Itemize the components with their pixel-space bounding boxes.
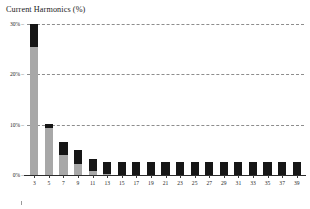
bar-stack: [263, 162, 271, 175]
bar-stack: [103, 162, 111, 175]
bar-27: [205, 24, 213, 175]
bar-group: [27, 24, 304, 175]
bar-segment-limit: [132, 162, 140, 175]
y-tick-text: 30%: [10, 21, 20, 27]
x-tick-label: 21: [163, 180, 169, 186]
bar-19: [147, 24, 155, 175]
bar-23: [176, 24, 184, 175]
bar-stack: [74, 150, 82, 175]
y-tick-dash-icon: –: [21, 21, 24, 27]
bar-stack: [191, 162, 199, 175]
bar-stack: [132, 162, 140, 175]
y-tick-label: 20%–: [10, 71, 24, 77]
x-tick-label: 25: [192, 180, 198, 186]
x-tick-label: 19: [148, 180, 154, 186]
bar-15: [118, 24, 126, 175]
bar-segment-limit: [147, 162, 155, 175]
bar-17: [132, 24, 140, 175]
x-tick-label: 39: [294, 180, 300, 186]
scan-artifact: [21, 201, 22, 205]
bar-stack: [118, 162, 126, 175]
bar-stack: [89, 159, 97, 175]
x-tick-label: 29: [221, 180, 227, 186]
bar-13: [103, 24, 111, 175]
bar-stack: [59, 142, 67, 175]
bar-segment-limit: [249, 162, 257, 175]
plot-area: 0%–10%–20%–30%–: [27, 24, 304, 175]
x-tick-label: 11: [90, 180, 95, 186]
x-tick-mark: [268, 175, 269, 178]
x-tick-label: 13: [104, 180, 110, 186]
bar-segment-limit: [30, 24, 38, 47]
y-tick-dash-icon: –: [21, 122, 24, 128]
y-tick-text: 0%: [13, 172, 20, 178]
x-tick-label: 7: [62, 180, 65, 186]
y-tick-dash-icon: –: [21, 71, 24, 77]
x-tick-label: 15: [119, 180, 125, 186]
x-tick-mark: [122, 175, 123, 178]
bar-35: [263, 24, 271, 175]
x-tick-mark: [78, 175, 79, 178]
y-tick-label: 30%–: [10, 21, 24, 27]
x-tick-mark: [93, 175, 94, 178]
x-tick-mark: [253, 175, 254, 178]
bar-segment-limit: [263, 162, 271, 175]
bar-segment-limit: [118, 162, 126, 175]
x-tick-mark: [224, 175, 225, 178]
x-tick-mark: [151, 175, 152, 178]
x-tick-mark: [63, 175, 64, 178]
x-tick-mark: [166, 175, 167, 178]
y-tick-text: 20%: [10, 71, 20, 77]
bar-stack: [205, 162, 213, 175]
x-tick-mark: [195, 175, 196, 178]
bar-stack: [278, 162, 286, 175]
x-tick-label: 3: [33, 180, 36, 186]
y-tick-label: 0%–: [13, 172, 24, 178]
bar-9: [74, 24, 82, 175]
x-tick-label: 5: [47, 180, 50, 186]
bar-segment-limit: [103, 162, 111, 174]
bar-segment-limit: [59, 142, 67, 156]
x-tick-label: 23: [177, 180, 183, 186]
x-tick-mark: [34, 175, 35, 178]
bar-stack: [45, 124, 53, 175]
bar-39: [293, 24, 301, 175]
bar-11: [89, 24, 97, 175]
x-tick-mark: [136, 175, 137, 178]
x-tick-mark: [282, 175, 283, 178]
bar-segment-limit: [293, 162, 301, 175]
bar-segment-limit: [220, 162, 228, 175]
bar-stack: [30, 24, 38, 175]
harmonics-chart: Current Harmonics (%) 0%–10%–20%–30%– 35…: [0, 0, 310, 209]
bar-segment-measured: [74, 164, 82, 175]
x-tick-mark: [107, 175, 108, 178]
x-tick-label: 37: [279, 180, 285, 186]
bar-segment-measured: [45, 128, 53, 175]
x-tick-label: 31: [236, 180, 242, 186]
bar-segment-limit: [161, 162, 169, 175]
x-tick-mark: [180, 175, 181, 178]
bar-7: [59, 24, 67, 175]
chart-title: Current Harmonics (%): [6, 5, 85, 14]
bar-stack: [147, 162, 155, 175]
bar-stack: [161, 162, 169, 175]
bar-segment-limit: [89, 159, 97, 171]
bar-stack: [176, 162, 184, 175]
x-tick-label: 33: [250, 180, 256, 186]
bar-segment-limit: [205, 162, 213, 175]
bar-33: [249, 24, 257, 175]
x-tick-mark: [297, 175, 298, 178]
x-tick-mark: [49, 175, 50, 178]
bar-segment-measured: [59, 155, 67, 175]
bar-25: [191, 24, 199, 175]
y-tick-label: 10%–: [10, 122, 24, 128]
bar-stack: [220, 162, 228, 175]
x-tick-label: 17: [134, 180, 140, 186]
bar-segment-limit: [74, 150, 82, 164]
bar-segment-limit: [278, 162, 286, 175]
bar-21: [161, 24, 169, 175]
bar-31: [234, 24, 242, 175]
bar-segment-measured: [30, 47, 38, 175]
bar-segment-limit: [234, 162, 242, 175]
x-tick-label: 35: [265, 180, 271, 186]
